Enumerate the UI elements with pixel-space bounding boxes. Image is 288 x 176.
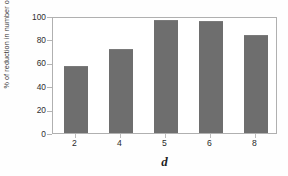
x-axis-tick-mark [210, 134, 211, 138]
y-axis-tick-mark [47, 134, 52, 135]
x-axis-tick-label: 4 [97, 138, 142, 149]
bar [64, 66, 88, 133]
bar [199, 21, 223, 133]
y-axis-tick-label: 20 [16, 106, 46, 115]
y-axis-tick-mark [47, 87, 52, 88]
y-axis-tick-label: 60 [16, 59, 46, 68]
plot-area [52, 17, 277, 134]
x-axis-title: d [52, 154, 277, 170]
y-axis-title: % of reduction in number of terms [0, 0, 14, 91]
y-axis-tick-label: 80 [16, 36, 46, 45]
x-axis-tick-label: 5 [142, 138, 187, 149]
bar [154, 20, 178, 133]
x-axis-tick-mark [255, 134, 256, 138]
y-axis-tick-label: 40 [16, 83, 46, 92]
y-axis-tick-label: 100 [16, 13, 46, 22]
bar-chart-figure: % of reduction in number of terms 100806… [0, 0, 288, 176]
x-axis-tick-label: 8 [232, 138, 277, 149]
y-axis-tick-label: 0 [16, 130, 46, 139]
x-axis-tick-mark [120, 134, 121, 138]
x-axis-tick-label: 6 [187, 138, 232, 149]
y-axis-tick-mark [47, 40, 52, 41]
y-axis-tick-mark [47, 111, 52, 112]
x-axis-tick-mark [165, 134, 166, 138]
x-axis-tick-mark [75, 134, 76, 138]
bar [244, 35, 268, 133]
y-axis-tick-mark [47, 17, 52, 18]
y-axis-tick-labels: 100806040200 [16, 0, 46, 176]
y-axis-tick-mark [47, 64, 52, 65]
x-axis-tick-labels: 24568 [52, 138, 277, 150]
bar [109, 49, 133, 133]
x-axis-tick-label: 2 [52, 138, 97, 149]
